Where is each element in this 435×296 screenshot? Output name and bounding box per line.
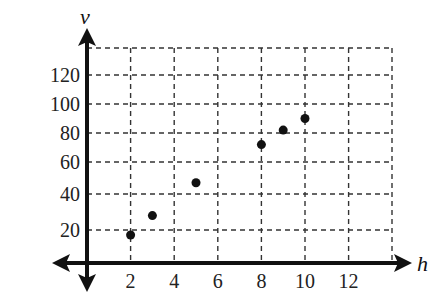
y-tick-label: 80 xyxy=(60,122,80,144)
x-tick-label: 2 xyxy=(126,270,136,292)
data-point xyxy=(279,126,288,135)
y-tick-label: 40 xyxy=(60,183,80,205)
data-point xyxy=(148,211,157,220)
x-tick-label: 10 xyxy=(295,270,315,292)
x-tick-label: 4 xyxy=(169,270,179,292)
y-tick-label: 20 xyxy=(60,219,80,241)
data-point xyxy=(257,140,266,149)
y-axis-label: v xyxy=(80,4,90,29)
x-axis-label: h xyxy=(417,251,428,276)
scatter-chart: 2468101220406080100120 h v xyxy=(0,0,435,296)
axes xyxy=(52,28,412,292)
grid-lines xyxy=(87,48,392,263)
data-point xyxy=(192,178,201,187)
x-tick-label: 12 xyxy=(339,270,359,292)
y-tick-label: 120 xyxy=(50,64,80,86)
y-tick-label: 100 xyxy=(50,93,80,115)
tick-labels: 2468101220406080100120 xyxy=(50,64,359,292)
x-tick-label: 6 xyxy=(213,270,223,292)
y-tick-label: 60 xyxy=(60,151,80,173)
data-point xyxy=(301,114,310,123)
x-tick-label: 8 xyxy=(256,270,266,292)
data-point xyxy=(126,230,135,239)
